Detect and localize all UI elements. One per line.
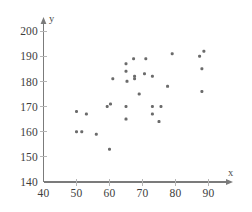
y-tick-label: 160 [20, 126, 38, 138]
data-point [132, 57, 135, 60]
data-point [125, 62, 128, 65]
data-point [108, 148, 111, 151]
data-point [151, 105, 154, 108]
data-point [75, 110, 78, 113]
data-point [138, 92, 141, 95]
x-axis-label: x [228, 167, 234, 178]
data-point [125, 118, 128, 121]
x-tick-label: 60 [104, 187, 116, 199]
y-axis-label: y [49, 13, 55, 24]
y-tick-label: 180 [20, 76, 38, 88]
x-tick-label: 50 [71, 187, 83, 199]
data-points-layer [75, 50, 205, 151]
y-tick-label: 150 [20, 151, 38, 163]
plot-canvas: 200 190 180 170 160 150 140 40 50 60 70 … [0, 0, 252, 212]
data-point [125, 70, 128, 73]
y-tick-label: 200 [20, 25, 38, 37]
data-point [125, 105, 128, 108]
data-point [200, 90, 203, 93]
data-point [143, 72, 146, 75]
data-point [85, 113, 88, 116]
x-axis-arrow-icon [226, 179, 233, 185]
data-point [111, 77, 114, 80]
x-axis-tick-labels: 40 50 60 70 80 90 [38, 187, 215, 199]
data-point [75, 130, 78, 133]
data-point [202, 50, 205, 53]
data-point [133, 77, 136, 80]
data-point [151, 75, 154, 78]
data-point [125, 80, 128, 83]
data-point [171, 52, 174, 55]
x-tick-label: 70 [137, 187, 149, 199]
data-point [109, 102, 112, 105]
data-point [158, 120, 161, 123]
y-axis-arrow-icon [41, 17, 47, 24]
y-tick-label: 170 [20, 101, 38, 113]
data-point [151, 113, 154, 116]
y-tick-label: 190 [20, 50, 38, 62]
data-point [80, 130, 83, 133]
scatter-plot-chart: 200 190 180 170 160 150 140 40 50 60 70 … [0, 0, 252, 212]
x-tick-label: 40 [38, 187, 50, 199]
y-axis-tick-labels: 200 190 180 170 160 150 140 [20, 25, 38, 188]
data-point [159, 105, 162, 108]
data-point [106, 105, 109, 108]
x-tick-label: 80 [170, 187, 182, 199]
data-point [144, 57, 147, 60]
data-point [200, 67, 203, 70]
data-point [166, 85, 169, 88]
y-tick-label: 140 [20, 176, 38, 188]
x-tick-label: 90 [203, 187, 215, 199]
data-point [198, 55, 201, 58]
data-point [95, 133, 98, 136]
